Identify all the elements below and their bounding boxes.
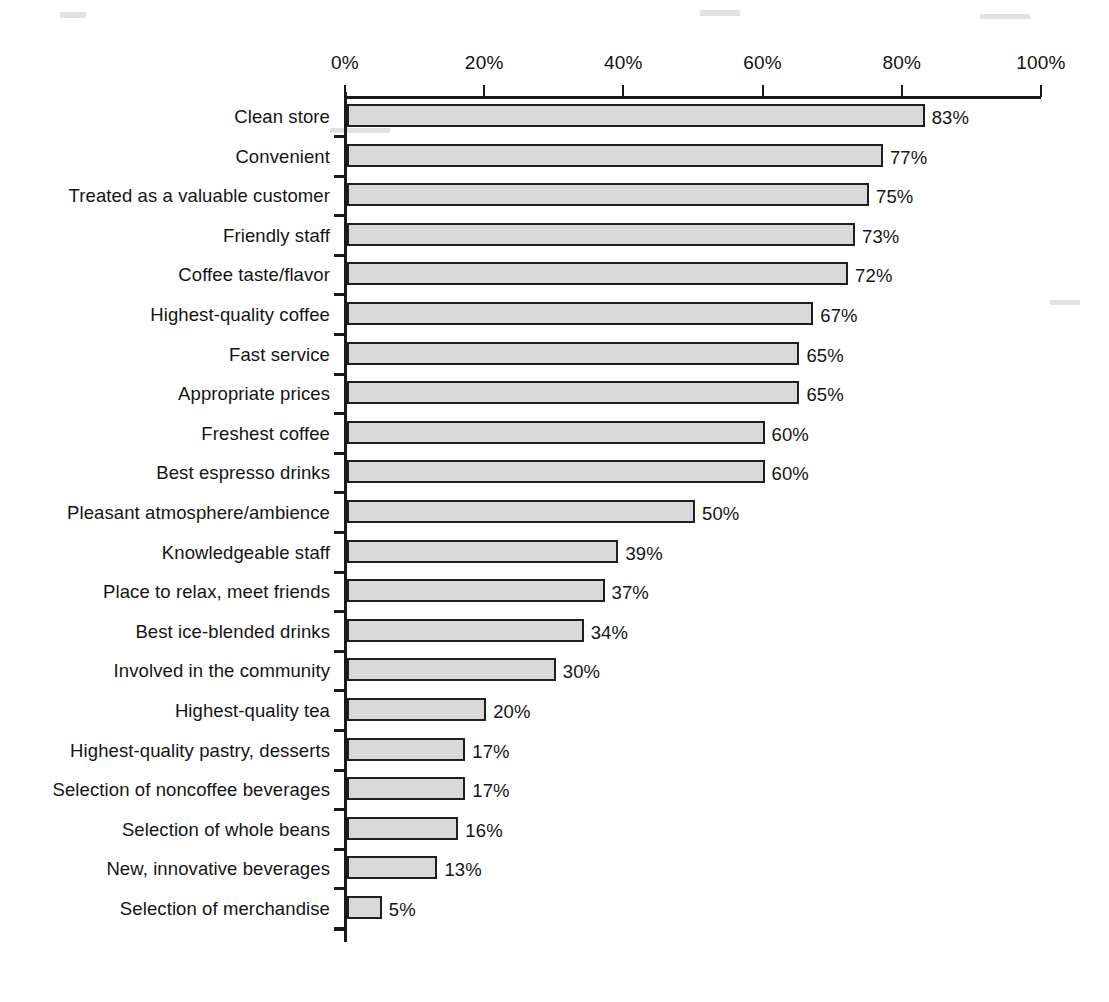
y-axis-tick-mark [334,610,345,613]
bar-row: Freshest coffee60% [0,421,1109,447]
y-axis-tick-mark [334,412,345,415]
bar-row: Selection of merchandise5% [0,896,1109,922]
bar [347,183,869,206]
category-label: Highest-quality coffee [150,302,330,328]
bar-value-label: 60% [772,460,809,486]
bar-value-label: 37% [612,579,649,605]
y-axis-tick-mark [334,650,345,653]
bar-row: Clean store83% [0,104,1109,130]
bar [347,738,465,761]
bar-value-label: 65% [806,381,843,407]
horizontal-bar-chart: 0%20%40%60%80%100% Clean store83%Conveni… [0,0,1109,1002]
y-axis-tick-mark [334,254,345,257]
bar-row: Highest-quality pastry, desserts17% [0,738,1109,764]
bar [347,342,799,365]
x-axis-tick-label: 0% [331,52,359,74]
x-axis-line [345,96,1041,99]
bar-value-label: 77% [890,144,927,170]
x-axis-tick-mark [762,85,764,97]
bar-value-label: 39% [625,540,662,566]
category-label: Best espresso drinks [156,460,330,486]
y-axis-tick-mark [334,531,345,534]
bar-value-label: 20% [493,698,530,724]
category-label: Selection of merchandise [120,896,330,922]
bar-value-label: 17% [472,777,509,803]
scan-artifact [60,12,86,18]
bar [347,262,848,285]
x-axis-tick-label: 60% [743,52,782,74]
category-label: Clean store [234,104,330,130]
bar-row: Convenient77% [0,144,1109,170]
bar [347,223,855,246]
bar [347,500,695,523]
bar-row: Highest-quality coffee67% [0,302,1109,328]
y-axis-tick-mark [334,373,345,376]
category-label: New, innovative beverages [106,856,330,882]
bar-row: Selection of whole beans16% [0,817,1109,843]
y-axis-tick-mark [334,135,345,138]
bar [347,579,605,602]
bar [347,460,765,483]
category-label: Best ice-blended drinks [135,619,330,645]
bar-row: Pleasant atmosphere/ambience50% [0,500,1109,526]
bar [347,777,465,800]
bar-row: Selection of noncoffee beverages17% [0,777,1109,803]
bar [347,104,925,127]
bar-value-label: 17% [472,738,509,764]
x-axis-tick-mark [901,85,903,97]
bar [347,421,765,444]
bar-row: Fast service65% [0,342,1109,368]
x-axis-tick-mark [483,85,485,97]
x-axis-tick-mark [1040,85,1042,97]
y-axis-tick-mark [334,333,345,336]
bar-value-label: 50% [702,500,739,526]
x-axis-tick-label: 80% [882,52,921,74]
y-axis-tick-mark [334,689,345,692]
x-axis-tick-mark [344,85,346,97]
x-axis-tick-label: 100% [1016,52,1065,74]
bar-row: Treated as a valuable customer75% [0,183,1109,209]
category-label: Freshest coffee [201,421,330,447]
bar-row: New, innovative beverages13% [0,856,1109,882]
category-label: Appropriate prices [178,381,330,407]
bar-row: Coffee taste/flavor72% [0,262,1109,288]
bar-row: Best espresso drinks60% [0,460,1109,486]
category-label: Knowledgeable staff [162,540,330,566]
category-label: Involved in the community [114,658,330,684]
bar-row: Appropriate prices65% [0,381,1109,407]
bar-row: Friendly staff73% [0,223,1109,249]
y-axis-tick-mark [334,175,345,178]
scan-artifact [980,14,1030,19]
bar-row: Place to relax, meet friends37% [0,579,1109,605]
bar [347,817,458,840]
y-axis-tick-mark [334,491,345,494]
y-axis-tick-mark [334,729,345,732]
y-axis-tick-mark [334,887,345,890]
y-axis-tick-mark [334,214,345,217]
y-axis-tick-mark [334,769,345,772]
bar [347,896,382,919]
category-label: Place to relax, meet friends [103,579,330,605]
bar-value-label: 75% [876,183,913,209]
scan-artifact [700,10,740,16]
x-axis-tick-mark [622,85,624,97]
bar [347,856,437,879]
y-axis-tick-mark [334,452,345,455]
bar-value-label: 83% [932,104,969,130]
bar-value-label: 72% [855,262,892,288]
category-label: Treated as a valuable customer [69,183,330,209]
bar-value-label: 13% [444,856,481,882]
y-axis-tick-mark [334,808,345,811]
bar-value-label: 67% [820,302,857,328]
bar-value-label: 65% [806,342,843,368]
bar-value-label: 34% [591,619,628,645]
category-label: Coffee taste/flavor [178,262,330,288]
y-axis-tick-mark [334,571,345,574]
bar-value-label: 60% [772,421,809,447]
bar [347,381,799,404]
y-axis-end-tick [334,928,345,931]
y-axis-tick-mark [334,848,345,851]
bar-value-label: 73% [862,223,899,249]
category-label: Highest-quality tea [175,698,330,724]
bar [347,302,813,325]
